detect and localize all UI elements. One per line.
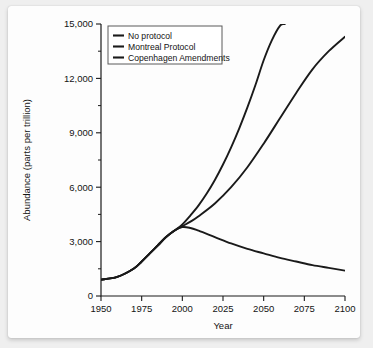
y-tick-label: 3,000 [69, 236, 93, 247]
axis-lines [101, 24, 345, 296]
y-tick-label: 9,000 [69, 127, 93, 138]
y-tick-label: 15,000 [64, 18, 93, 29]
x-axis-title: Year [213, 320, 232, 331]
y-tick-label: 6,000 [69, 182, 93, 193]
x-tick-label: 2000 [172, 303, 193, 314]
y-axis-title: Abundance (parts per trillion) [21, 99, 32, 221]
x-tick-label: 2050 [253, 303, 274, 314]
x-tick-label: 2075 [294, 303, 315, 314]
y-tick-label: 12,000 [64, 73, 93, 84]
abundance-chart: 03,0006,0009,00012,00015,000195019752000… [0, 0, 373, 348]
legend-label-1: Montreal Protocol [128, 42, 195, 52]
legend-label-2: Copenhagen Amendments [128, 53, 230, 63]
x-tick-label: 2100 [334, 303, 355, 314]
y-tick-label: 0 [88, 290, 93, 301]
x-tick-label: 1950 [90, 303, 111, 314]
series-line-montreal-protocol [101, 37, 345, 280]
legend-label-0: No protocol [128, 31, 172, 41]
x-tick-label: 2025 [212, 303, 233, 314]
series-line-copenhagen-amendments [101, 227, 345, 280]
x-tick-label: 1975 [131, 303, 152, 314]
